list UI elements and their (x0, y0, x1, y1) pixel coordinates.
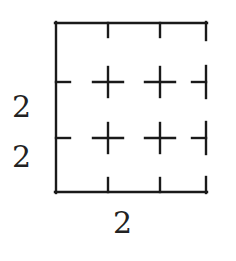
bottom-edge-ticks (108, 178, 160, 192)
right-edge-ticks (192, 82, 206, 138)
geometry-figure: 2 2 2 (0, 0, 236, 261)
top-edge-ticks (108, 23, 160, 37)
dimension-label-bottom: 2 (113, 208, 132, 238)
crosshair-mark (145, 123, 175, 153)
interior-crosshairs (93, 67, 175, 153)
dimension-label-left-lower: 2 (12, 142, 31, 172)
crosshair-mark (93, 67, 123, 97)
left-edge-ticks (56, 82, 70, 138)
dimension-label-left-upper: 2 (12, 92, 31, 122)
crosshair-mark (93, 123, 123, 153)
crosshair-mark (145, 67, 175, 97)
